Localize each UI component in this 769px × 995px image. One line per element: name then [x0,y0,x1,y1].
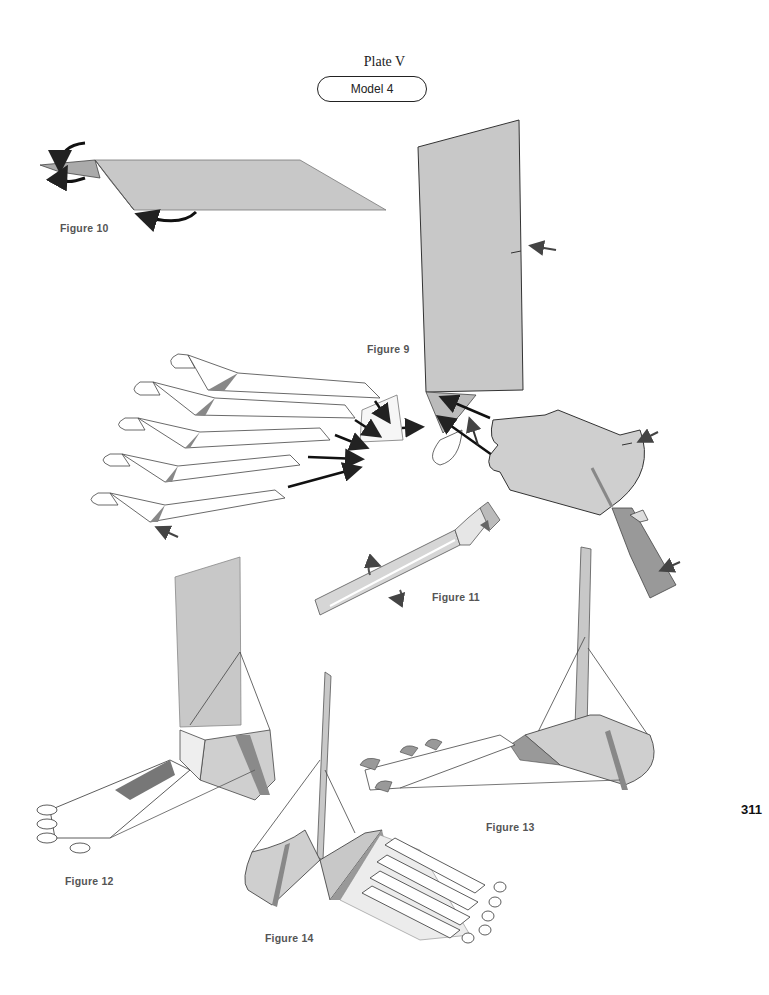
figure-11-label: Figure 11 [432,591,480,603]
figure-10-drawing [40,143,386,221]
figure-14-label: Figure 14 [265,932,313,944]
figure-12-label: Figure 12 [65,875,113,887]
illustrations [0,0,769,995]
figure-9-label: Figure 9 [367,343,409,355]
figure-13-label: Figure 13 [486,821,534,833]
figure-14-drawing [245,672,506,943]
figure-9-drawing [360,120,680,598]
figure-9-toe-strips [91,354,388,537]
figure-12-drawing [37,557,275,853]
figure-13-drawing [360,547,654,792]
page-number: 311 [741,802,762,817]
figure-10-label: Figure 10 [60,222,108,234]
